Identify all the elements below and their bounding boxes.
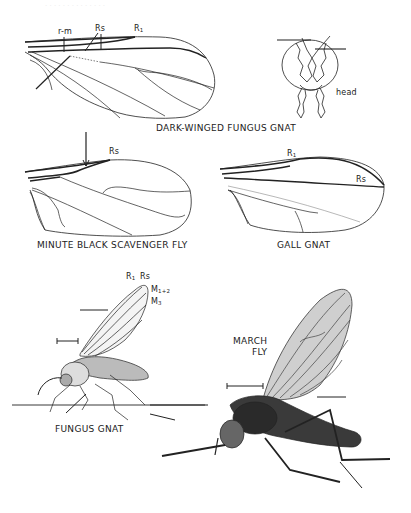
label-rs: Rs	[109, 147, 119, 156]
caption-gall-gnat: GALL GNAT	[277, 240, 330, 250]
caption-minute-black-scavenger-fly: MINUTE BLACK SCAVENGER FLY	[37, 240, 187, 250]
illustration-plate: · · · · · · · · · · · · · ·	[0, 0, 411, 513]
caption-dark-winged-fungus-gnat: DARK-WINGED FUNGUS GNAT	[156, 123, 296, 133]
label-r1-sub: 1	[140, 27, 144, 33]
label-m12: M1+2	[151, 285, 170, 294]
label-m3: M3	[151, 297, 162, 306]
label-m12-sub: 1+2	[158, 288, 170, 294]
dark-winged-fungus-gnat-wing	[0, 0, 411, 513]
head-label: head	[336, 88, 357, 97]
label-rm: r-m	[58, 27, 72, 36]
label-r1-sub: 1	[132, 275, 136, 281]
caption-fungus-gnat: FUNGUS GNAT	[55, 424, 124, 434]
caption-march-fly-line2: FLY	[252, 347, 267, 357]
label-rs: Rs	[140, 272, 150, 281]
label-r1: R1	[134, 24, 143, 33]
label-r1: R1	[126, 272, 135, 281]
caption-march-fly-line1: MARCH	[233, 336, 267, 346]
label-rs: Rs	[356, 175, 366, 184]
label-r1: R1	[287, 149, 296, 158]
label-rs: Rs	[95, 24, 105, 33]
label-m3-sub: 3	[158, 300, 162, 306]
label-r1-sub: 1	[293, 152, 297, 158]
